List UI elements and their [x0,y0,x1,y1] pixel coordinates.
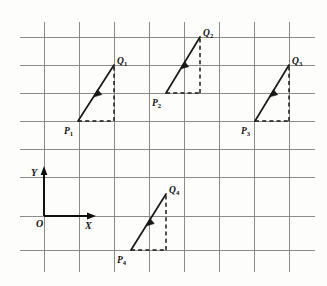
label-q4-subscript: 4 [176,189,180,196]
x-axis-arrowhead [87,213,96,220]
label-q4: Q4 [169,185,180,196]
label-q2-subscript: 2 [210,32,214,39]
label-q1: Q1 [117,56,127,67]
label-p4: P4 [117,255,127,266]
label-p1-subscript: 1 [70,130,73,137]
coordinate-axes [41,166,96,219]
label-p2-subscript: 2 [158,102,162,109]
label-p2: P2 [152,98,162,109]
label-y-axis: Y [31,167,38,178]
figure-svg: P1 Q1 P2 Q2 P3 Q3 P4 Q4 [0,0,327,286]
label-q2: Q2 [203,28,214,39]
label-p3-subscript: 3 [247,130,251,137]
label-x-axis: X [84,220,92,231]
label-q3: Q3 [292,56,303,67]
label-p1: P1 [64,126,73,137]
vector-4-group [131,194,166,250]
label-q1-subscript: 1 [124,60,127,67]
vector-figure-canvas: P1 Q1 P2 Q2 P3 Q3 P4 Q4 [0,0,327,286]
label-q3-subscript: 3 [299,60,303,67]
grid-layer [20,22,315,272]
vector-4-arrowhead [146,219,155,227]
grid-horizontal-lines [20,37,315,250]
label-p4-subscript: 4 [123,259,127,266]
label-p3: P3 [241,126,251,137]
label-origin: O [36,218,43,229]
y-axis-arrowhead [41,166,48,175]
